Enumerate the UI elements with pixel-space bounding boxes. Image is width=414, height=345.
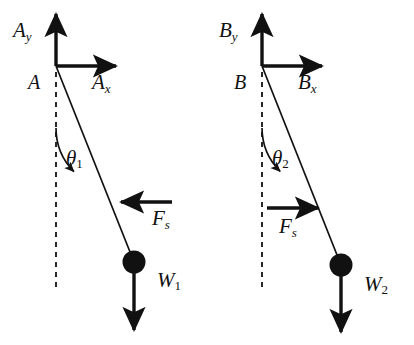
label-horizontal-reaction-b: Bx — [298, 72, 317, 93]
label-spring-force-b: Fs — [279, 216, 297, 237]
physics-figure: Ay A Ax θ1 Fs W1 By B Bx θ2 Fs W2 — [0, 0, 414, 345]
label-weight-a: W1 — [157, 270, 181, 291]
label-vertical-reaction-a: Ay — [13, 20, 32, 41]
label-pivot-a: A — [28, 72, 40, 92]
pendulum-panel-a — [56, 14, 172, 330]
label-spring-force-a: Fs — [152, 208, 170, 229]
label-pivot-b: B — [234, 72, 246, 92]
label-weight-b: W2 — [364, 274, 388, 295]
label-horizontal-reaction-a: Ax — [92, 72, 111, 93]
diagram-canvas — [0, 0, 414, 345]
pendulum-panel-b — [262, 14, 353, 332]
label-angle-b: θ2 — [272, 148, 289, 169]
label-vertical-reaction-b: By — [219, 20, 238, 41]
label-angle-a: θ1 — [66, 148, 83, 169]
